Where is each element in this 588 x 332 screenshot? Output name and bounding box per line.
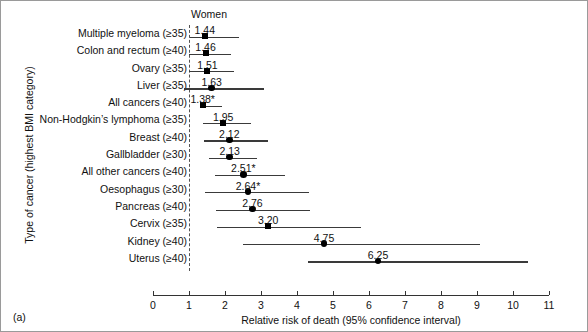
point-value-label: 2.12 bbox=[219, 128, 239, 140]
column-header-women: Women bbox=[191, 8, 227, 20]
x-axis-tick-label: 10 bbox=[507, 299, 519, 311]
x-axis-tick bbox=[513, 291, 514, 295]
x-axis-tick-label: 5 bbox=[330, 299, 336, 311]
confidence-interval-bar bbox=[215, 175, 286, 176]
x-axis-tick-label: 2 bbox=[222, 299, 228, 311]
point-value-label: 2.64* bbox=[236, 180, 261, 192]
point-value-label: 3.20 bbox=[258, 214, 278, 226]
confidence-interval-bar bbox=[205, 192, 309, 193]
point-value-label: 1.95 bbox=[213, 111, 233, 123]
x-axis-tick bbox=[333, 291, 334, 295]
x-axis-tick bbox=[405, 291, 406, 295]
point-value-label: 1.46 bbox=[195, 41, 215, 53]
x-axis-tick bbox=[225, 291, 226, 295]
forest-row: 2.13 bbox=[153, 146, 549, 163]
forest-row: 4.75 bbox=[153, 233, 549, 250]
x-axis-tick-label: 11 bbox=[544, 299, 555, 311]
confidence-interval-bar bbox=[308, 261, 528, 262]
point-value-label: 2.51* bbox=[231, 162, 256, 174]
x-axis-tick-label: 1 bbox=[186, 299, 192, 311]
x-axis-title: Relative risk of death (95% confidence i… bbox=[153, 314, 549, 326]
confidence-interval-bar bbox=[189, 54, 230, 55]
x-axis-tick bbox=[297, 291, 298, 295]
point-value-label: 1.63 bbox=[201, 76, 221, 88]
confidence-interval-bar bbox=[216, 210, 310, 211]
forest-row: 3.20 bbox=[153, 215, 549, 232]
x-axis-tick bbox=[369, 291, 370, 295]
forest-row: 1.51 bbox=[153, 60, 549, 77]
x-axis-line bbox=[153, 295, 549, 296]
forest-row: 2.51* bbox=[153, 163, 549, 180]
forest-row: 2.76 bbox=[153, 198, 549, 215]
confidence-interval-bar bbox=[190, 37, 239, 38]
x-axis-tick-label: 9 bbox=[474, 299, 480, 311]
x-axis-tick-label: 6 bbox=[366, 299, 372, 311]
confidence-interval-bar bbox=[184, 88, 264, 89]
x-axis: 01234567891011 bbox=[153, 295, 549, 296]
x-axis-tick-label: 0 bbox=[150, 299, 156, 311]
point-value-label: 1.44 bbox=[195, 24, 215, 36]
forest-row: 1.38* bbox=[153, 94, 549, 111]
x-axis-tick-label: 7 bbox=[402, 299, 408, 311]
forest-row: 1.46 bbox=[153, 42, 549, 59]
forest-row: 2.12 bbox=[153, 129, 549, 146]
x-axis-tick-label: 4 bbox=[294, 299, 300, 311]
confidence-interval-bar bbox=[203, 123, 251, 124]
x-axis-tick-label: 8 bbox=[438, 299, 444, 311]
x-axis-tick bbox=[189, 291, 190, 295]
point-value-label: 6.25 bbox=[368, 249, 388, 261]
point-value-label: 1.51 bbox=[197, 59, 217, 71]
forest-row: 6.25 bbox=[153, 250, 549, 267]
forest-plot-figure: Type of cancer (highest BMI category) Mu… bbox=[0, 0, 588, 332]
x-axis-tick bbox=[549, 291, 550, 295]
x-axis-tick-label: 3 bbox=[258, 299, 264, 311]
point-value-label: 2.76 bbox=[242, 197, 262, 209]
confidence-interval-bar bbox=[217, 227, 361, 228]
x-axis-tick bbox=[261, 291, 262, 295]
x-axis-tick bbox=[441, 291, 442, 295]
forest-row: 1.95 bbox=[153, 112, 549, 129]
confidence-interval-bar bbox=[243, 244, 480, 245]
point-value-label: 2.13 bbox=[219, 145, 239, 157]
x-axis-tick bbox=[477, 291, 478, 295]
x-axis-tick bbox=[153, 291, 154, 295]
point-value-label: 1.38* bbox=[190, 93, 215, 105]
confidence-interval-bar bbox=[189, 71, 234, 72]
plot-area: 1.441.461.511.631.38*1.952.122.132.51*2.… bbox=[153, 25, 549, 295]
panel-label: (a) bbox=[13, 311, 26, 323]
confidence-interval-bar bbox=[204, 140, 268, 141]
forest-row: 2.64* bbox=[153, 181, 549, 198]
point-value-label: 4.75 bbox=[314, 232, 334, 244]
forest-row: 1.44 bbox=[153, 25, 549, 42]
confidence-interval-bar bbox=[209, 158, 257, 159]
forest-row: 1.63 bbox=[153, 77, 549, 94]
